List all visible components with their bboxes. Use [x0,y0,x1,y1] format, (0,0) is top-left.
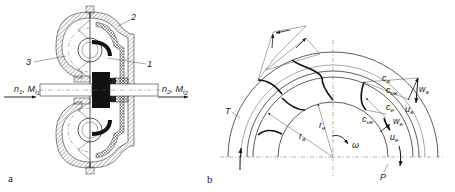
figure-canvas: 2 3 1 n1, Mt1 n2, Mt2 a [0,0,455,192]
flange-top [86,6,94,13]
coupling-cross-section [30,6,165,174]
casing-lower [56,102,90,168]
rotation-arrow-left-icon [240,148,241,170]
label-ue: ue [390,132,399,143]
vector-ce [366,110,386,114]
leader-2 [118,20,130,26]
label-cue: cue [362,114,374,125]
vector-2 [276,30,290,33]
output-label: n2, Mt2 [162,84,189,96]
part-label-3: 3 [26,57,31,67]
pump-hub-upper [74,76,90,82]
label-ce: ce [386,102,395,113]
label-ra: ra [299,131,306,142]
leader-P [384,164,388,172]
casing-upper [56,12,90,78]
blade-5 [361,82,366,110]
label-P: P [380,172,386,182]
input-label: n1, Mt1 [14,84,40,96]
omega-arrow-icon [332,135,348,144]
radius-re [318,104,333,157]
label-ca: ca [382,73,391,84]
velocity-diagram [220,26,445,176]
triangle-top-left [258,26,306,80]
blade-2 [282,98,305,110]
blade-1 [258,130,282,135]
vector-3 [296,38,306,48]
label-ua: ua [405,104,414,115]
panel-label-b: b [207,173,213,185]
label-re: re [319,120,326,131]
part-label-1: 1 [147,59,152,69]
panel-label-a: a [8,172,13,184]
label-wa: wa [419,84,430,95]
label-omega: ω [352,140,359,150]
flange-bottom [86,167,94,174]
flow-path-upper [68,28,90,72]
vector-1 [272,34,273,48]
leader-1 [108,58,146,64]
blade-3 [258,80,282,94]
flow-path-lower [68,108,90,152]
label-we: we [393,116,404,127]
part-label-2: 2 [130,12,136,22]
pump-hub-lower [74,98,90,104]
label-T: T [225,106,232,116]
rotation-arrow-right-icon [399,146,401,166]
